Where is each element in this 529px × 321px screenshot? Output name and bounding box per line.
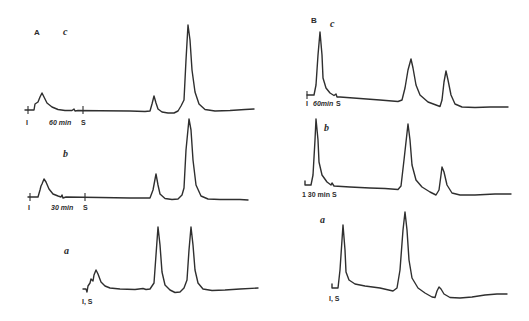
marker-label: I	[26, 119, 28, 126]
panel-b-trace-b: b 1 30 min S	[302, 119, 511, 198]
trace-label: a	[320, 214, 325, 225]
panel-a-label: A	[34, 28, 40, 37]
trace-label: c	[330, 18, 335, 29]
chromatogram-line	[305, 119, 511, 195]
chromatogram-line	[332, 212, 507, 298]
panel-a-trace-b: b I 30 min S	[28, 119, 248, 211]
marker-label: I	[306, 100, 308, 107]
panel-b-trace-c: c I 60min S	[306, 18, 508, 108]
marker-label: S	[81, 119, 86, 126]
panel-a: A c I 60 min S b I 30 min S a I, S	[25, 25, 258, 306]
marker-label: S	[336, 100, 341, 107]
marker-label: 60min	[313, 100, 333, 107]
trace-label: a	[64, 245, 69, 256]
marker-label: S	[83, 204, 88, 211]
chromatogram-line	[28, 119, 248, 200]
chromatogram-line	[25, 25, 254, 113]
marker-label: I, S	[82, 298, 93, 306]
marker-label: 60 min	[49, 119, 71, 126]
marker-label: I, S	[329, 295, 340, 303]
panel-b: B c I 60min S b 1 30 min S a I, S	[302, 16, 511, 303]
marker-label: I	[28, 204, 30, 211]
panel-a-trace-a: a I, S	[64, 227, 258, 306]
chromatogram-figure: A c I 60 min S b I 30 min S a I, S	[0, 0, 529, 321]
chromatogram-line	[83, 227, 258, 293]
trace-label: c	[63, 26, 68, 37]
marker-label: 1 30 min S	[302, 191, 337, 198]
trace-label: b	[324, 122, 329, 133]
marker-label: 30 min	[51, 204, 73, 211]
panel-a-trace-c: c I 60 min S	[25, 25, 254, 126]
panel-b-label: B	[311, 16, 317, 25]
panel-b-trace-a: a I, S	[320, 212, 507, 303]
trace-label: b	[63, 148, 68, 159]
chromatogram-line	[307, 32, 508, 108]
